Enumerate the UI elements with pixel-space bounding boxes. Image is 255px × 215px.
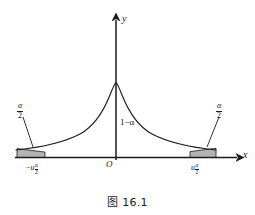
right-tick-subscript-denominator: 2	[195, 170, 199, 176]
central-area-label: 1−α	[120, 118, 134, 127]
left-tail-area-label: α 2	[17, 102, 23, 120]
right-tail-fraction: α 2	[216, 102, 222, 120]
figure-container: y x O 1−α α 2 α 2 − u α 2 u α 2	[0, 0, 255, 215]
right-tail-fraction-denominator: 2	[216, 112, 222, 120]
y-axis-label: y	[122, 14, 126, 24]
left-tail-fraction: α 2	[17, 102, 23, 120]
x-tick-label-left: − u α 2	[26, 161, 38, 173]
right-tick-subscript: α 2	[195, 163, 199, 175]
left-tick-subscript-denominator: 2	[35, 170, 39, 176]
left-tick-subscript: α 2	[35, 163, 39, 175]
x-tick-label-right: u α 2	[191, 161, 199, 173]
right-tail-area-label: α 2	[216, 102, 222, 120]
left-tail-fraction-denominator: 2	[17, 112, 23, 120]
left-label-leader-line	[23, 117, 33, 147]
x-axis-label: x	[243, 150, 247, 160]
right-label-leader-line	[207, 117, 219, 147]
figure-caption: 图 16.1	[0, 193, 255, 209]
origin-label: O	[106, 160, 113, 169]
